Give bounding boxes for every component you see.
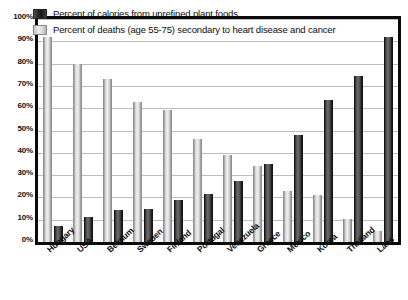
y-axis: 0%10%20%30%40%50%60%70%80%90%100% xyxy=(0,14,33,248)
bar-deaths xyxy=(343,219,352,242)
x-axis-labels: HungaryUSABelgiumSwedenFinlandPortugalVe… xyxy=(35,245,401,300)
plot-area xyxy=(35,16,401,245)
bar-group xyxy=(248,19,278,242)
bar-group xyxy=(98,19,128,242)
bar-group xyxy=(68,19,98,242)
bar-group xyxy=(338,19,368,242)
y-tick-label: 20% xyxy=(0,191,33,199)
bar-group xyxy=(38,19,68,242)
bar-calories xyxy=(324,100,333,242)
bar-group xyxy=(218,19,248,242)
bar-deaths xyxy=(163,110,172,242)
bar-group xyxy=(278,19,308,242)
bar-group xyxy=(308,19,338,242)
legend-swatch-dark-icon xyxy=(33,9,47,19)
y-tick-label: 0% xyxy=(0,236,33,244)
legend-item-deaths: Percent of deaths (age 55-75) secondary … xyxy=(33,22,336,37)
bar-deaths xyxy=(223,155,232,242)
bar-deaths xyxy=(283,191,292,242)
y-tick-label: 40% xyxy=(0,147,33,155)
bar-calories xyxy=(354,76,363,242)
y-tick-label: 80% xyxy=(0,58,33,66)
y-tick-label: 70% xyxy=(0,80,33,88)
bar-deaths xyxy=(193,139,202,242)
bar-chart: 0%10%20%30%40%50%60%70%80%90%100% Percen… xyxy=(0,0,408,300)
bar-calories xyxy=(384,37,393,242)
legend-item-calories: Percent of calories from unrefined plant… xyxy=(33,6,336,21)
legend-label-deaths: Percent of deaths (age 55-75) secondary … xyxy=(53,24,336,35)
bar-deaths xyxy=(103,79,112,242)
bar-group xyxy=(128,19,158,242)
bar-calories xyxy=(294,135,303,242)
y-tick-label: 60% xyxy=(0,102,33,110)
legend-label-calories: Percent of calories from unrefined plant… xyxy=(53,8,238,19)
y-tick-label: 90% xyxy=(0,35,33,43)
y-tick-label: 10% xyxy=(0,214,33,222)
bar-group xyxy=(188,19,218,242)
bars-layer xyxy=(38,19,398,242)
y-tick-label: 50% xyxy=(0,125,33,133)
bar-group xyxy=(368,19,398,242)
bar-deaths xyxy=(133,102,142,242)
y-tick-label: 30% xyxy=(0,169,33,177)
plot-inner xyxy=(38,19,398,242)
legend: Percent of calories from unrefined plant… xyxy=(33,6,336,38)
bar-group xyxy=(158,19,188,242)
y-tick-label: 100% xyxy=(0,13,33,21)
bar-deaths xyxy=(313,195,322,242)
legend-swatch-light-icon xyxy=(33,25,47,35)
bar-deaths xyxy=(43,37,52,242)
bar-deaths xyxy=(73,64,82,242)
